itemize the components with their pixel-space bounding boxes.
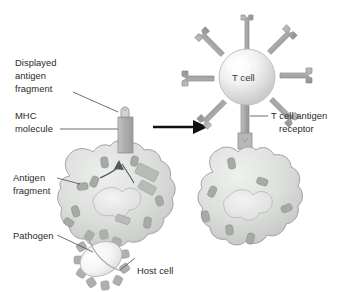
label-displayed-antigen-fragment-line3: fragment <box>15 83 53 94</box>
diagram-canvas: Displayed antigen fragment MHC molecule … <box>0 0 350 292</box>
label-displayed-antigen-fragment-line2: antigen <box>15 70 46 81</box>
label-mhc-molecule-line2: molecule <box>15 123 53 134</box>
label-pathogen: Pathogen <box>13 230 54 241</box>
label-antigen-fragment-line2: fragment <box>13 185 51 196</box>
antigen-fragment <box>100 156 108 168</box>
left-panel-group <box>58 107 175 290</box>
label-displayed-antigen-fragment-line1: Displayed <box>15 57 57 68</box>
receptor-arm <box>195 27 228 60</box>
mhc-molecule <box>118 117 133 153</box>
antigen-fragment <box>143 217 151 229</box>
receptor-arm <box>182 71 214 86</box>
antigen-fragment <box>225 225 233 236</box>
antigen-presentation-figure: Displayed antigen fragment MHC molecule … <box>0 0 350 292</box>
receptor-arm <box>264 25 297 58</box>
label-antigen-fragment-line1: Antigen <box>13 172 45 183</box>
leader-displayed-antigen-fragment <box>73 92 118 112</box>
label-host-cell: Host cell <box>137 265 173 276</box>
label-t-cell-antigen-receptor-line2: receptor <box>279 123 314 134</box>
label-mhc-molecule-line1: MHC <box>15 110 37 121</box>
label-t-cell: T cell <box>232 72 255 83</box>
label-t-cell-antigen-receptor-line1: T cell antigen <box>271 110 327 121</box>
displayed-antigen-fragment <box>121 107 129 117</box>
receptor-arm <box>280 68 312 83</box>
